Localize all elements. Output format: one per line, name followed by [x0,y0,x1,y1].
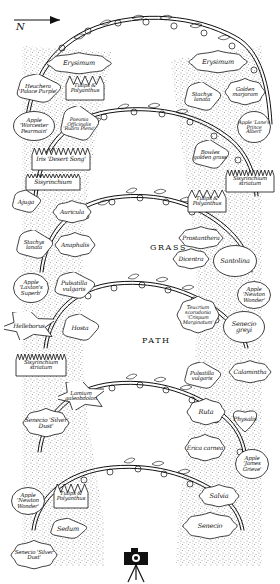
plant-bed-ajuga[interactable]: Ajuga [10,190,42,214]
plant-bed-santolina[interactable]: Santolina [212,244,258,278]
area-label-path: PATH [142,336,171,345]
plant-bed-label: Ajuga [17,199,35,205]
plant-bed-apple-newton-wonder-2[interactable]: Apple 'Newton Wonder' [10,486,46,516]
plant-bed-pulsatilla-1[interactable]: Pulsatilla vulgaris [52,272,96,300]
area-label-path-text: PATH [142,336,171,345]
plant-bed-sedum[interactable]: Sedum [48,518,88,540]
plant-bed-teucrium[interactable]: Teucrium scorodonia 'Crispum Marginatum' [176,296,220,334]
plant-bed-hosta[interactable]: Hosta [60,314,100,342]
plant-bed-label: Stachys lanata [183,92,221,103]
plant-bed-label: Senecio 'Silver Dust' [23,417,69,429]
plant-bed-label: Erysimum [62,60,96,66]
plant-bed-label: Apple 'Laxton's Superb' [13,280,49,296]
plant-bed-erysimum-left[interactable]: Erysimum [46,52,112,75]
plant-bed-label: Hosta [71,325,90,331]
plant-bed-apple-laxtons[interactable]: Apple 'Laxton's Superb' [12,272,50,304]
plant-bed-label: Sisyrinchium striatum [15,360,67,371]
plant-bed-paeonia[interactable]: Paeonia Officinalis 'Rubra Plena' [58,106,100,142]
plant-bed-label: Bowles golden grass [191,150,229,161]
plant-bed-label: Erysimum [201,59,235,65]
plant-bed-label: Teucrium scorodonia 'Crispum Marginatum' [177,305,219,325]
plant-bed-label: Tulips & Polyanthus [187,196,227,207]
compass-north-text: N [16,21,25,32]
garden-plan: GRASS PATH N ErysimumHeuchera 'Palace Pu… [0,0,280,584]
plant-bed-label: Apple 'James Grieve' [235,456,269,472]
plant-bed-senecio-silver-dust-2[interactable]: Senecio 'Silver Dust' [10,540,58,570]
plant-bed-tulips-polyanthus-2[interactable]: Tulips & Polyanthus [186,188,228,214]
plant-bed-label: Tulips & Polyanthus [53,491,89,502]
plant-bed-sisyrinchium-striatum-left[interactable]: Sisyrinchium striatum [14,352,68,378]
plant-bed-label: Auricula [59,209,85,215]
plant-bed-sisyrinchium-1[interactable]: Sisyrinchium [24,172,82,192]
plant-bed-label: Anaphalis [60,242,90,248]
plant-bed-apple-newton-wonder-1[interactable]: Apple 'Newton Wonder' [236,280,272,310]
plant-bed-label: Apple 'Newton Wonder' [11,493,45,509]
plant-bed-label: Paeonia Officinalis 'Rubra Plena' [59,117,99,132]
plant-bed-label: Apple 'Worcester Pearmain' [13,118,55,134]
plant-bed-tulips-polyanthus-3[interactable]: Tulips & Polyanthus [52,482,90,510]
plant-bed-golden-marjoram[interactable]: Golden marjoram [224,78,266,106]
plant-bed-apple-worcester[interactable]: Apple 'Worcester Pearmain' [12,110,56,142]
plant-bed-label: Senecio greyi [223,321,265,334]
plant-bed-label: Pulsatilla vulgaris [183,371,221,382]
plant-bed-apple-james-grieve[interactable]: Apple 'James Grieve' [234,448,270,480]
plant-bed-label: Sedum [56,526,80,532]
plant-bed-label: Sisyrinchium [33,179,72,185]
plant-bed-label: Sisyrinchium striatum [225,176,275,187]
plant-bed-label: Dicentra [178,256,205,262]
plant-bed-ruta[interactable]: Ruta [186,398,226,426]
plant-bed-apple-lanes-prince[interactable]: Apple 'Lane's Prince Albert' [236,110,272,144]
plant-bed-senecio-bottom[interactable]: Senecio [182,512,238,540]
plant-bed-dicentra[interactable]: Dicentra [172,248,210,270]
plant-bed-label: Stachys lanata [15,240,53,251]
plant-bed-label: Prostanthera [181,235,220,241]
plant-bed-label: Senecio [197,523,224,529]
plant-bed-auricula[interactable]: Auricula [52,200,92,224]
plant-bed-label: Salvia [209,493,230,499]
plant-bed-label: Pulsatilla vulgaris [53,280,95,292]
plant-bed-lamium[interactable]: Lamium galeobdolon [58,382,104,410]
plant-bed-senecio-silver-dust-1[interactable]: Senecio 'Silver Dust' [22,408,70,438]
plant-bed-label: Calamintha [233,369,268,375]
compass-north-label: N [16,21,25,32]
plant-bed-label: Golden marjoram [225,87,265,98]
plant-bed-label: Helleborus [12,323,45,329]
plant-bed-erica-carnea[interactable]: Erica carnea [184,434,226,462]
plant-bed-label: Lamium galeobdolon [59,391,103,402]
plant-bed-erysimum-right[interactable]: Erysimum [188,50,248,74]
plant-bed-pulsatilla-2[interactable]: Pulsatilla vulgaris [182,362,222,390]
plant-bed-heuchera[interactable]: Heuchera 'Palace Purple' [14,74,62,104]
plant-bed-bowles-golden-grass[interactable]: Bowles golden grass [190,140,230,170]
plant-bed-helleborus[interactable]: Helleborus [4,312,54,340]
plant-bed-stachys-lanata-left[interactable]: Stachys lanata [14,230,54,260]
plant-bed-physalis[interactable]: Physalis [228,404,262,434]
plant-bed-label: Apple 'Newton Wonder' [237,287,271,303]
plant-bed-label: Erica carnea [186,445,224,451]
camera-tripod-icon [124,548,148,582]
plant-bed-label: Tulips & Polyanthus [65,83,105,94]
plant-bed-label: Santolina [219,258,250,264]
plant-bed-anaphalis[interactable]: Anaphalis [54,232,96,258]
plant-bed-label: Iris 'Desert Song' [35,156,86,162]
plant-bed-label: Heuchera 'Palace Purple' [15,84,61,95]
plant-bed-calamintha[interactable]: Calamintha [228,360,272,384]
plant-bed-senecio-greyi[interactable]: Senecio greyi [222,310,266,344]
plant-bed-stachys-lanata-right[interactable]: Stachys lanata [182,82,222,112]
plant-bed-tulips-polyanthus-1[interactable]: Tulips & Polyanthus [64,74,106,102]
plant-bed-sisyrinchium-striatum-right[interactable]: Sisyrinchium striatum [224,168,276,194]
plant-bed-iris-desert-song[interactable]: Iris 'Desert Song' [30,146,92,172]
plant-bed-label: Ruta [198,409,215,415]
plant-bed-salvia[interactable]: Salvia [198,484,240,508]
plant-bed-label: Senecio 'Silver Dust' [11,550,57,561]
plant-bed-label: Physalis [232,416,257,422]
plant-bed-label: Apple 'Lane's Prince Albert' [237,120,271,135]
